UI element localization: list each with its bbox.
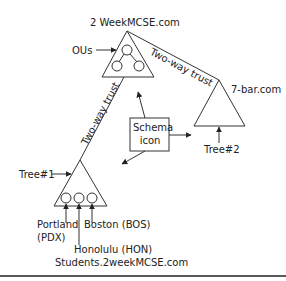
schema-box-line2: icon [133,136,167,146]
root-domain-label: 2 WeekMCSE.com [90,18,180,28]
tree1-label: Tree#1 [19,170,55,180]
site-honolulu-label: Honolulu (HON) [74,245,152,255]
tree2-label: Tree#2 [204,145,240,155]
ous-label: OUs [72,46,92,56]
schema-box-line1: Schema [133,123,167,133]
site-portland-label: Portland [37,220,78,230]
child-domain-triangle [54,160,107,206]
second-domain-label: 7-bar.com [231,85,281,95]
ad-forest-diagram: 2 WeekMCSE.com OUs Two-way trust 7-bar.c… [0,0,286,281]
site-boston-label: Boston (BOS) [84,220,150,230]
child-domain-label: Students.2weekMCSE.com [55,258,188,268]
site-portland-code: (PDX) [37,233,65,243]
root-domain-triangle [102,31,154,77]
